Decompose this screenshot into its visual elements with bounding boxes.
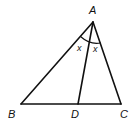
label-a: A xyxy=(88,4,96,16)
segment-ac xyxy=(93,22,121,104)
segment-ab xyxy=(21,22,93,104)
segment-ad xyxy=(78,22,93,104)
label-b: B xyxy=(8,108,15,120)
label-c: C xyxy=(120,108,128,120)
label-d: D xyxy=(71,108,79,120)
triangle-diagram: A B D C x x xyxy=(0,0,135,131)
angle-label-dac: x xyxy=(92,44,98,54)
angle-label-bad: x xyxy=(76,43,82,53)
